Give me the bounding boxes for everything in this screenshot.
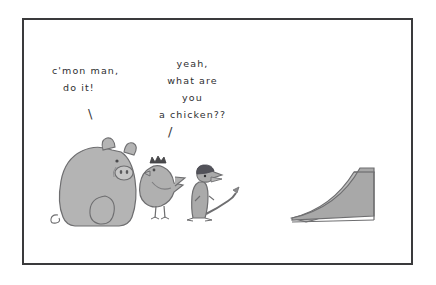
- caption-right-line1: yeah,: [140, 55, 245, 72]
- caption-right-line3: you: [140, 89, 245, 106]
- caption-left-line2: do it!: [52, 79, 119, 96]
- caption-left-pointer: \: [88, 106, 92, 121]
- caption-right-pointer: /: [168, 124, 172, 139]
- cartoon-panel: c'mon man, do it! \ yeah, what are you a…: [0, 0, 436, 285]
- caption-right-line2: what are: [140, 72, 245, 89]
- caption-right-line4: a chicken??: [140, 106, 245, 123]
- caption-left: c'mon man, do it!: [52, 62, 119, 96]
- caption-left-line1: c'mon man,: [52, 62, 119, 79]
- caption-right: yeah, what are you a chicken??: [140, 55, 245, 123]
